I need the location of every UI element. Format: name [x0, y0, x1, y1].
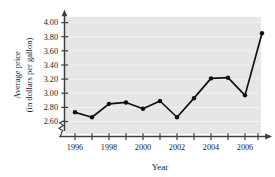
x-tick-label: 2000 [135, 143, 151, 152]
x-tick-label: 2002 [169, 143, 185, 152]
y-tick-label: 3.20 [44, 75, 58, 84]
y-axis-tick-labels: 2.60 2.80 3.00 3.20 3.40 3.60 3.80 4.00 [44, 18, 58, 126]
x-axis-title: Year [152, 162, 169, 172]
x-axis [59, 133, 272, 139]
y-tick-label: 3.00 [44, 89, 58, 98]
data-point [175, 115, 179, 119]
plot-area-background [65, 17, 261, 134]
y-tick-label: 3.40 [44, 61, 58, 70]
y-tick-label: 2.60 [44, 117, 58, 126]
data-point [226, 76, 230, 80]
y-tick-label: 3.60 [44, 47, 58, 56]
data-point [243, 93, 247, 97]
data-point [260, 31, 264, 35]
y-tick-label: 2.80 [44, 103, 58, 112]
data-point [192, 96, 196, 100]
x-tick-label: 2004 [203, 143, 219, 152]
y-axis-title-line2: (in dollars per gallon) [24, 38, 34, 113]
line-chart: 2.60 2.80 3.00 3.20 3.40 3.60 3.80 4.00 [0, 0, 275, 177]
x-tick-label: 1998 [101, 143, 117, 152]
y-axis-title-line1: Average price [12, 51, 22, 99]
data-point [209, 76, 213, 80]
chart-figure: 2.60 2.80 3.00 3.20 3.40 3.60 3.80 4.00 [0, 0, 275, 177]
data-point [73, 110, 77, 114]
data-point [141, 107, 145, 111]
x-axis-tick-labels: 1996 1998 2000 2002 2004 2006 [67, 143, 253, 152]
y-tick-label: 4.00 [44, 18, 58, 27]
data-point [124, 100, 128, 104]
x-tick-label: 1996 [67, 143, 83, 152]
data-point [158, 99, 162, 103]
y-axis-title: Average price (in dollars per gallon) [12, 38, 34, 113]
y-tick-label: 3.80 [44, 33, 58, 42]
data-point [90, 115, 94, 119]
x-tick-label: 2006 [237, 143, 253, 152]
data-point [107, 102, 111, 106]
